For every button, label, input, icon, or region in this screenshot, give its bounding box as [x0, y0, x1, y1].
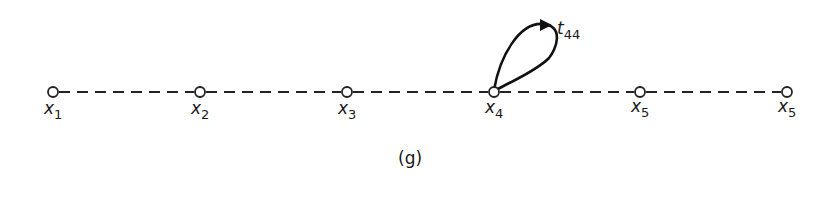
label-x1: x1: [44, 100, 62, 121]
label-x4: x4: [485, 99, 503, 120]
label-t44: t44: [557, 20, 580, 41]
node-x3: [342, 87, 352, 97]
signal-flow-graph: [0, 0, 830, 200]
node-x2: [195, 87, 205, 97]
node-x4: [489, 87, 499, 97]
label-x5: x5: [631, 98, 649, 119]
loop-arrowhead-icon: [540, 19, 552, 31]
self-loop-t44: [494, 24, 557, 90]
label-x2: x2: [191, 100, 209, 121]
node-x1: [48, 87, 58, 97]
figure-caption: (g): [398, 148, 422, 168]
label-x5-second: x5: [778, 98, 796, 119]
label-x3: x3: [338, 100, 356, 121]
